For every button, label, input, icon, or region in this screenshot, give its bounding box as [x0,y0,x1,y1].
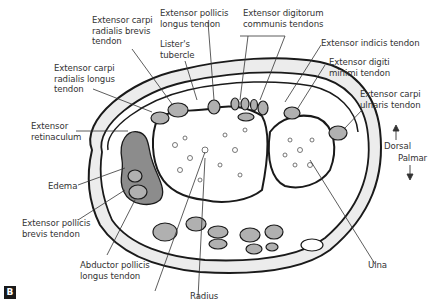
label-extensor-pollicis-longus: Extensor pollicis longus tendon [160,8,228,29]
label-extensor-carpi-ulnaris: Extensor carpi ulnaris tendon [360,89,421,110]
label-dorsal: Dorsal [384,141,411,152]
label-abductor-pollicis-longus: Abductor pollicis longus tendon [80,260,150,281]
label-edema: Edema [48,181,77,192]
label-extensor-carpi-radialis-brevis: Extensor carpi radialis brevis tendon [92,15,153,47]
label-extensor-pollicis-brevis: Extensor pollicis brevis tendon [22,218,90,239]
label-extensor-carpi-radialis-longus: Extensor carpi radialis longus tendon [54,63,115,95]
label-palmar: Palmar [398,153,427,164]
label-extensor-retinaculum: Extensor retinaculum [31,121,81,142]
label-extensor-digiti-minimi: Extensor digiti minimi tendon [329,57,390,78]
panel-label-badge: B [4,286,16,299]
label-extensor-indicis: Extensor indicis tendon [321,38,420,49]
label-ulna: Ulna [368,260,387,271]
label-radius: Radius [190,291,218,302]
label-extensor-digitorum-communis: Extensor digitorum communis tendons [243,8,323,29]
label-listers-tubercle: Lister's tubercle [160,39,195,60]
